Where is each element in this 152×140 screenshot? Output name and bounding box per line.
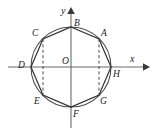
y-axis-arrow-icon	[67, 7, 75, 14]
point-label-g: G	[100, 97, 107, 107]
y-axis-label: y	[61, 6, 65, 16]
point-label-o: O	[62, 57, 69, 67]
x-axis-label: x	[130, 54, 134, 64]
point-label-h: H	[113, 70, 120, 80]
point-label-f: F	[73, 110, 79, 120]
x-axis-arrow-icon	[143, 63, 150, 71]
point-label-b: B	[74, 19, 80, 29]
geometry-figure: x y A B C D E F G H O	[0, 0, 152, 140]
point-label-d: D	[18, 61, 25, 71]
point-label-a: A	[101, 29, 107, 39]
point-label-e: E	[34, 97, 40, 107]
point-label-c: C	[32, 29, 38, 39]
